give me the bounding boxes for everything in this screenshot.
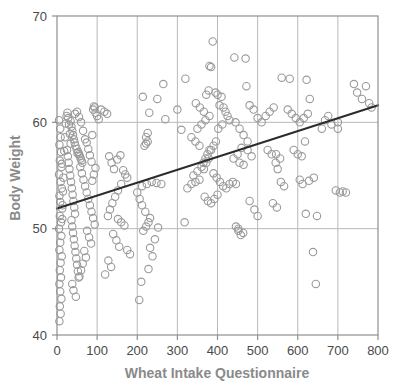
x-tick-label: 0 [53, 343, 60, 358]
x-tick-label: 400 [207, 343, 229, 358]
scatter-plot-figure: 0100200300400500600700800 40506070 Wheat… [0, 0, 398, 391]
y-tick-label: 40 [33, 328, 47, 343]
y-axis-ticks [52, 16, 57, 335]
x-axis-ticks [57, 335, 378, 340]
y-axis-tick-labels: 40506070 [33, 9, 47, 343]
y-axis-title: Body Weight [7, 135, 23, 221]
x-tick-label: 200 [126, 343, 148, 358]
x-tick-label: 800 [367, 343, 389, 358]
x-tick-label: 700 [327, 343, 349, 358]
x-tick-label: 500 [247, 343, 269, 358]
x-tick-label: 300 [167, 343, 189, 358]
y-tick-label: 60 [33, 115, 47, 130]
chart-canvas: 0100200300400500600700800 40506070 Wheat… [0, 0, 398, 391]
x-tick-label: 100 [86, 343, 108, 358]
y-tick-label: 50 [33, 221, 47, 236]
x-tick-label: 600 [287, 343, 309, 358]
x-axis-title: Wheat Intake Questionnaire [125, 365, 310, 381]
x-axis-tick-labels: 0100200300400500600700800 [53, 343, 388, 358]
y-tick-label: 70 [33, 9, 47, 24]
